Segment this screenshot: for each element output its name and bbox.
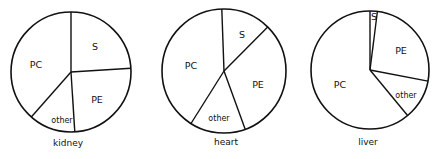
pie-kidney: SPEotherPC — [11, 12, 131, 132]
slice-label-pe: PE — [252, 79, 264, 90]
slice-label-s: S — [371, 11, 377, 22]
pie-chart-figure: SPEotherPCSPEotherPCSPEotherPC kidney he… — [0, 0, 436, 159]
slice-label-pc: PC — [334, 79, 347, 90]
pie-heart: SPEotherPC — [162, 9, 286, 133]
slice-label-other: other — [208, 114, 230, 123]
slice-label-other: other — [51, 116, 73, 125]
slice-label-s: S — [239, 29, 245, 40]
pie-charts-canvas: SPEotherPCSPEotherPCSPEotherPC — [0, 0, 436, 159]
slice-label-pc: PC — [30, 59, 43, 70]
pie-liver: SPEotherPC — [311, 11, 429, 130]
slice-label-pc: PC — [185, 60, 198, 71]
slice-label-s: S — [92, 41, 98, 52]
slice-label-other: other — [395, 91, 417, 100]
caption-heart: heart — [214, 137, 238, 147]
slice-label-pe: PE — [395, 45, 407, 56]
caption-kidney: kidney — [53, 138, 83, 148]
slice-label-pe: PE — [91, 94, 103, 105]
caption-liver: liver — [358, 137, 378, 147]
